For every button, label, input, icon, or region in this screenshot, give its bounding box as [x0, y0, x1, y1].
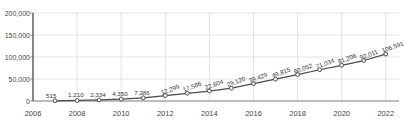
y-axis-tick-label: 100,000: [5, 54, 30, 61]
data-point-label: 2,334: [90, 91, 105, 98]
x-axis-tick-label: 2008: [69, 109, 86, 118]
x-axis-tick-label: 2022: [377, 109, 394, 118]
y-axis-tick-label: 0: [26, 98, 30, 105]
y-axis-tick-label: 200,000: [5, 10, 30, 17]
x-axis-tick-label: 2020: [333, 109, 350, 118]
x-axis-tick-label: 2016: [245, 109, 262, 118]
data-point-label: 515: [46, 92, 56, 99]
y-axis-tick-label: 150,000: [5, 32, 30, 39]
x-axis-tick-label: 2018: [289, 109, 306, 118]
data-point-label: 1,210: [68, 91, 83, 98]
y-axis-tick-label: 50,000: [9, 76, 30, 83]
x-axis-tick-labels: 200620082010201220142016201820202022: [0, 109, 403, 123]
data-point-label: 4,350: [112, 90, 127, 97]
x-axis-tick-label: 2006: [25, 109, 42, 118]
x-axis-tick-label: 2014: [201, 109, 218, 118]
x-axis-tick-label: 2010: [113, 109, 130, 118]
data-point-label: 7,286: [134, 89, 149, 96]
x-axis-tick-label: 2012: [157, 109, 174, 118]
